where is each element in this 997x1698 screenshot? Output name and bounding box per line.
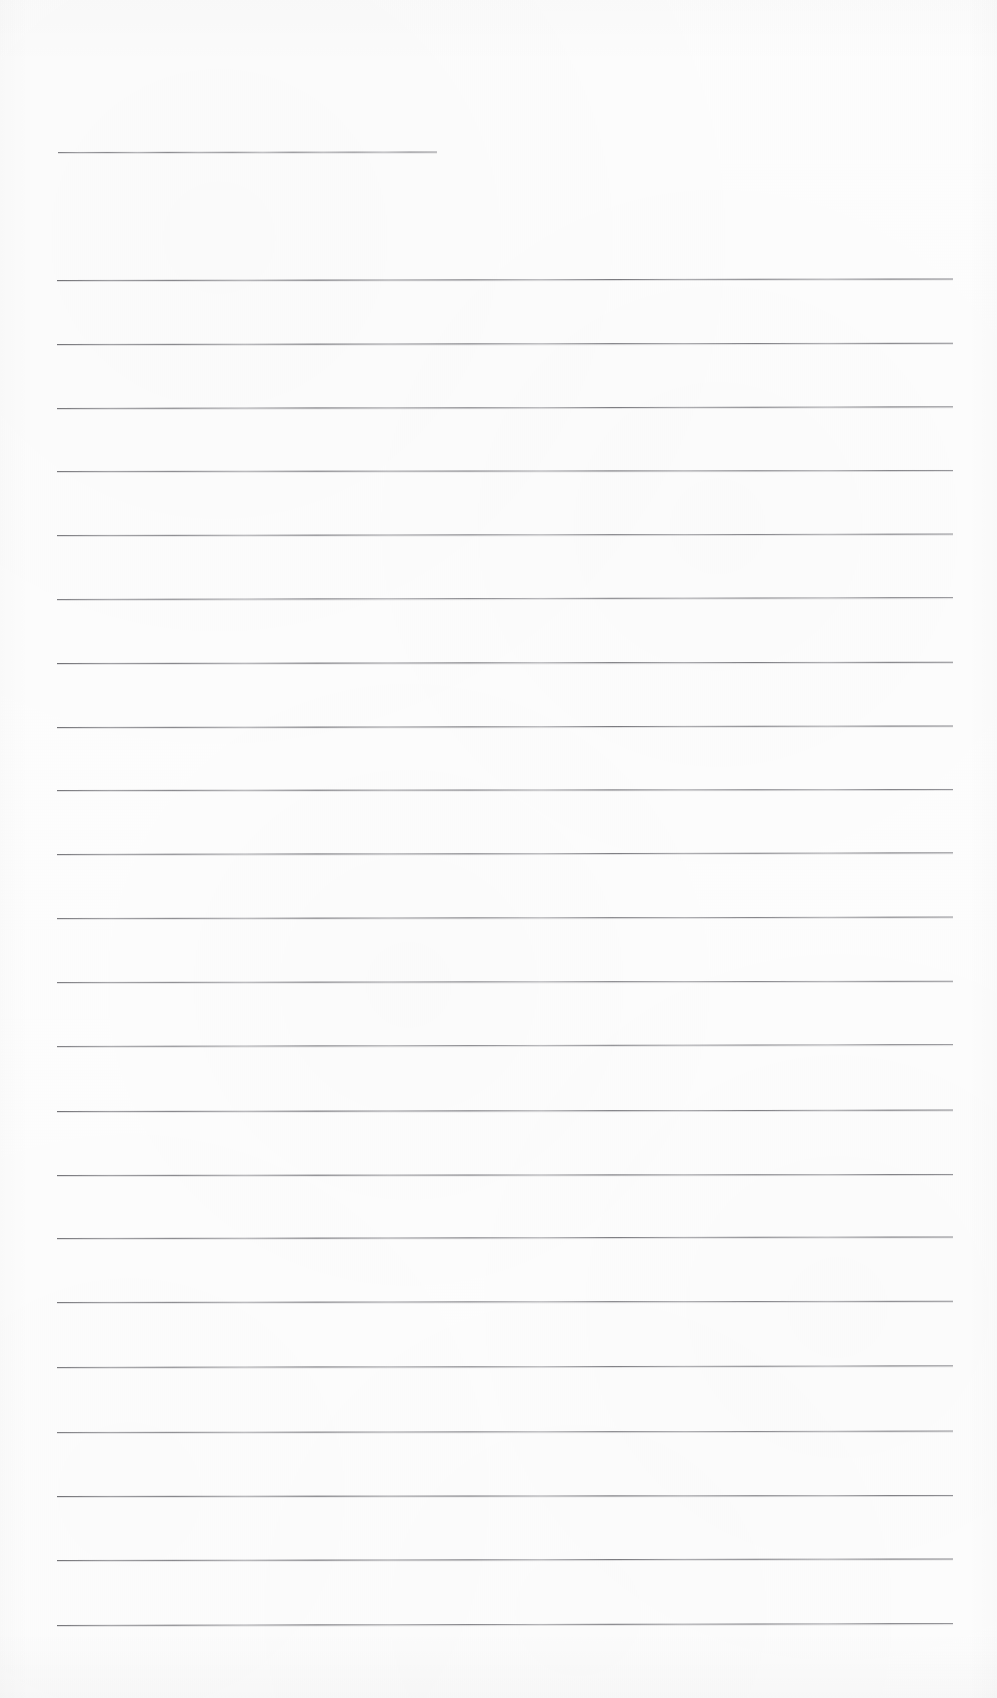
writing-area: [57, 160, 953, 1640]
ruled-line-ink: [58, 152, 437, 153]
scanned-page: [0, 0, 997, 1698]
ruled-line-short: [58, 152, 437, 154]
ruled-line-halo: [58, 152, 437, 154]
